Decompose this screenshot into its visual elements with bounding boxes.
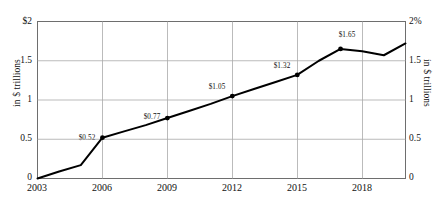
series-group — [38, 43, 406, 178]
data-point-marker — [295, 72, 300, 77]
data-point-marker — [165, 116, 170, 121]
line-chart: in $ trillions in $ trillions $2 1.5 1 0… — [0, 0, 443, 206]
plot-area — [0, 0, 443, 206]
data-point-marker — [230, 94, 235, 99]
data-point-marker — [100, 135, 105, 140]
series-line — [38, 43, 406, 178]
data-point-marker — [338, 47, 343, 52]
